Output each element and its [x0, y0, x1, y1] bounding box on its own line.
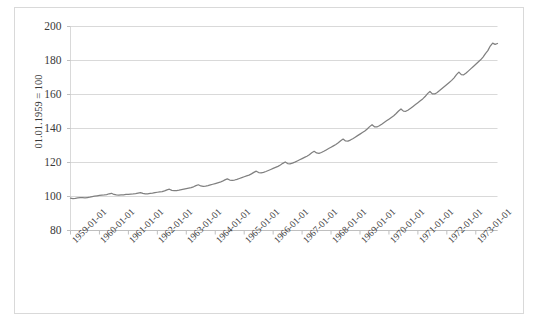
- y-tick-label: 180: [28, 55, 62, 66]
- gridlines-group: [71, 27, 498, 231]
- y-tick-marks-group: [67, 27, 71, 231]
- chart-screenshot: 01.01.1959 = 100 80100120140160180200 19…: [0, 0, 537, 324]
- y-tick-label: 80: [28, 225, 62, 236]
- y-tick-label: 140: [28, 123, 62, 134]
- line-chart-svg: [0, 0, 537, 324]
- data-series-line: [71, 43, 498, 198]
- y-tick-label: 120: [28, 157, 62, 168]
- y-tick-label: 200: [28, 21, 62, 32]
- y-tick-label: 100: [28, 191, 62, 202]
- y-tick-label: 160: [28, 89, 62, 100]
- chart-plot-container: 01.01.1959 = 100 80100120140160180200 19…: [0, 0, 537, 324]
